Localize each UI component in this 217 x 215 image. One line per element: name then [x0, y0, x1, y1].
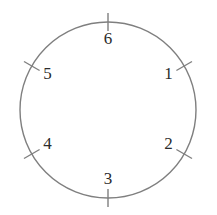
tick-label-2: 2: [164, 134, 173, 153]
tick-1: [176, 62, 192, 71]
tick-label-3: 3: [104, 169, 113, 188]
tick-label-6: 6: [104, 29, 113, 48]
tick-2: [176, 150, 192, 159]
tick-label-5: 5: [43, 64, 52, 83]
tick-5: [24, 62, 40, 71]
tick-label-4: 4: [43, 134, 52, 153]
tick-label-1: 1: [164, 64, 173, 83]
tick-label-group: 612345: [43, 29, 173, 188]
circle-tick-diagram: 612345: [0, 0, 217, 215]
diagram-canvas: 612345: [0, 0, 217, 215]
tick-4: [24, 150, 40, 159]
